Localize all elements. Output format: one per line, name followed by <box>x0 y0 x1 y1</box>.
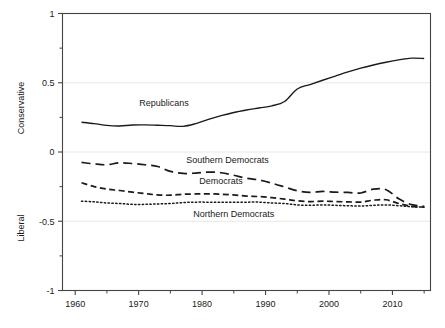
y-tick-label: 0.5 <box>42 78 55 88</box>
x-tick-label: 1960 <box>65 299 85 309</box>
x-tick-label: 1990 <box>256 299 276 309</box>
series-label-democrats: Democrats <box>199 176 243 186</box>
series-label-northern-democrats: Northern Democrats <box>193 209 275 219</box>
series-label-republicans: Republicans <box>139 98 189 108</box>
x-tick-label: 2000 <box>319 299 339 309</box>
political-polarization-line-chart: 10.50-0.5-1 196019701980199020002010 Rep… <box>0 0 445 328</box>
y-tick-label: 1 <box>49 9 54 19</box>
y-axis-label-liberal: Liberal <box>16 214 26 241</box>
x-tick-label: 1970 <box>129 299 149 309</box>
chart-container: 10.50-0.5-1 196019701980199020002010 Rep… <box>0 0 445 328</box>
x-tick-label: 1980 <box>192 299 212 309</box>
y-tick-label: -0.5 <box>39 217 55 227</box>
y-tick-label: 0 <box>49 147 54 157</box>
x-tick-label: 2010 <box>382 299 402 309</box>
series-label-southern-democrats: Southern Democrats <box>186 155 269 165</box>
y-tick-label: -1 <box>46 286 54 296</box>
y-axis-label-conservative: Conservative <box>16 82 26 135</box>
